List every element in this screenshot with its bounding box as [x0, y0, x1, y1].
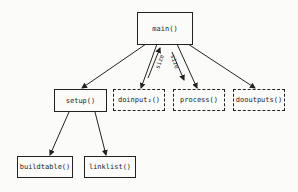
node-linklist-label: linklist(): [89, 163, 131, 171]
edge-setup-linklist: [95, 112, 106, 155]
node-dooutputs-label: dooutputs(): [236, 96, 282, 104]
node-linklist: linklist(): [84, 156, 136, 178]
node-process-label: process(): [180, 96, 218, 104]
node-buildtable-label: buildtable(): [20, 163, 71, 171]
node-setup-label: setup(): [66, 97, 96, 105]
node-main: main(): [137, 12, 193, 45]
node-main-label: main(): [152, 25, 177, 33]
node-process: process(): [173, 89, 225, 111]
node-buildtable: buildtable(): [17, 156, 73, 178]
edge-setup-buildtable: [50, 112, 69, 155]
node-dooutputs: dooutputs(): [233, 89, 285, 111]
edge-main-setup: [82, 44, 146, 88]
node-setup: setup(): [54, 89, 107, 112]
node-doinput: doinput₂(): [113, 89, 165, 111]
node-doinput-label: doinput₂(): [118, 96, 160, 104]
edge-main-dooutputs: [188, 44, 255, 88]
